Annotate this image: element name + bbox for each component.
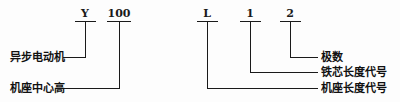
label-pole-number: 极数 bbox=[321, 51, 343, 64]
label-frame-center-height: 机座中心高 bbox=[10, 82, 62, 95]
leader-vertical-pole-number bbox=[290, 21, 291, 57]
leader-vertical-frame-length bbox=[207, 21, 208, 88]
leader-vertical-core-length bbox=[250, 21, 251, 72]
label-asynchronous-motor: 异步电动机 bbox=[10, 51, 62, 64]
leader-horizontal-series bbox=[63, 57, 86, 58]
leader-horizontal-pole-number bbox=[290, 57, 318, 58]
code-symbol-pole-number: 2 bbox=[275, 8, 305, 20]
leader-horizontal-center-height bbox=[63, 88, 120, 89]
motor-model-designation-diagram: Y 100 L 1 2 异步电动机 机座中心高 极数 铁芯长度代号 机座长度代号 bbox=[0, 0, 400, 102]
code-symbol-series: Y bbox=[70, 8, 100, 20]
code-symbol-frame-length: L bbox=[192, 8, 222, 20]
label-core-length-code: 铁芯长度代号 bbox=[321, 66, 387, 79]
code-symbol-core-length: 1 bbox=[235, 8, 265, 20]
code-symbol-center-height: 100 bbox=[104, 8, 134, 20]
leader-vertical-center-height bbox=[119, 21, 120, 88]
leader-horizontal-frame-length bbox=[207, 88, 318, 89]
leader-horizontal-core-length bbox=[250, 72, 318, 73]
label-frame-length-code: 机座长度代号 bbox=[321, 82, 387, 95]
leader-vertical-series bbox=[85, 21, 86, 57]
